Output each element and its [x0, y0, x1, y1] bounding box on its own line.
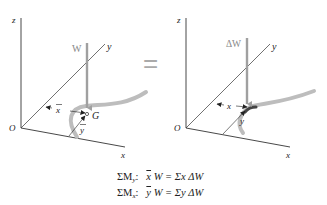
weight-label: W	[72, 43, 82, 54]
x-dimension-left	[217, 104, 224, 105]
centroid-point	[85, 112, 88, 115]
y-axis-label: y	[106, 41, 112, 52]
origin-label-right: O	[174, 123, 181, 133]
sum-moment-label: ΣM	[117, 171, 132, 182]
z-axis-label-right: z	[176, 15, 181, 25]
x-label: x	[226, 101, 231, 111]
ybar-label: y	[79, 125, 84, 135]
colon: :	[136, 187, 139, 198]
ybar-variable: y	[146, 187, 151, 198]
equation-rhs: W = Σy ΔW	[154, 187, 204, 198]
z-axis-label: z	[11, 15, 16, 25]
y-label: y	[239, 116, 244, 126]
equation-mx: ΣMx: y W = Σy ΔW	[117, 187, 203, 200]
xbar-dimension	[46, 107, 52, 108]
centroid-label: G	[92, 110, 99, 121]
equals-sign: =	[143, 48, 158, 78]
x-axis-label: x	[120, 150, 125, 160]
y-axis-right	[186, 44, 270, 128]
curved-rod-right	[239, 91, 314, 133]
x-axis-right	[186, 128, 290, 147]
x-dimension-right	[236, 106, 247, 107]
xbar-label: x	[55, 105, 60, 115]
delta-weight-label: ΔW	[226, 39, 241, 49]
equation-rhs: W = Σx ΔW	[154, 171, 204, 182]
y-axis-label-right: y	[271, 41, 277, 52]
equation-my: ΣMy: x W = Σx ΔW	[117, 171, 203, 184]
origin-label: O	[9, 123, 16, 133]
colon: :	[136, 171, 139, 182]
xbar-variable: x	[146, 171, 151, 182]
left-panel: z y x O W G x y	[9, 15, 146, 160]
right-panel: z y x O ΔW x y	[174, 15, 314, 160]
sum-moment-label: ΣM	[117, 187, 132, 198]
x-axis-label-right: x	[285, 150, 290, 160]
